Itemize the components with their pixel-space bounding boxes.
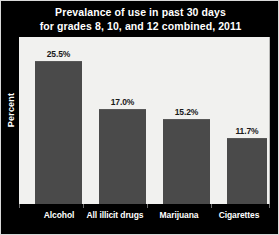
bar-value-label: 11.7% <box>235 126 258 136</box>
bar-all-illicit-drugs <box>99 109 146 204</box>
category-label-marijuana: Marijuana <box>147 210 211 220</box>
bar-marijuana <box>163 119 210 204</box>
chart-title-line-1: Prevalance of use in past 30 days <box>1 5 279 19</box>
category-label-cigarettes: Cigarettes <box>209 210 269 220</box>
x-axis-category-labels: Alcohol All illicit drugs Marijuana Ciga… <box>19 207 269 227</box>
bar-slot-alcohol: 25.5% <box>35 37 82 204</box>
bar-value-label: 15.2% <box>175 107 199 117</box>
plot-area: 25.5% 17.0% 15.2% 11.7% <box>19 37 270 204</box>
bar-slot-all-illicit-drugs: 17.0% <box>99 37 146 204</box>
category-label-alcohol: Alcohol <box>27 210 91 220</box>
bar-value-label: 25.5% <box>47 49 71 59</box>
bar-cigarettes <box>227 138 267 204</box>
bar-slot-marijuana: 15.2% <box>163 37 210 204</box>
y-axis-title: Percent <box>6 82 16 138</box>
chart-title: Prevalance of use in past 30 days for gr… <box>1 5 279 33</box>
category-label-all-illicit-drugs: All illicit drugs <box>83 210 147 220</box>
chart-title-line-2: for grades 8, 10, and 12 combined, 2011 <box>1 19 279 33</box>
bar-slot-cigarettes: 11.7% <box>227 37 267 204</box>
bar-chart-panel: Prevalance of use in past 30 days for gr… <box>0 0 279 235</box>
bar-value-label: 17.0% <box>111 97 135 107</box>
axis-tick <box>269 204 270 208</box>
bar-alcohol <box>35 61 82 204</box>
